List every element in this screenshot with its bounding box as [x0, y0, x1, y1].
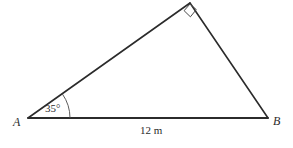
side-cb-line	[190, 3, 268, 118]
side-label-ab: 12 m	[140, 125, 162, 136]
side-ac-line	[28, 3, 190, 118]
vertex-label-b: B	[273, 115, 280, 127]
triangle-figure: A B 35° 12 m	[0, 0, 293, 148]
vertex-label-a: A	[13, 116, 20, 128]
angle-label-a: 35°	[45, 103, 60, 114]
angle-arc-a	[62, 94, 70, 118]
